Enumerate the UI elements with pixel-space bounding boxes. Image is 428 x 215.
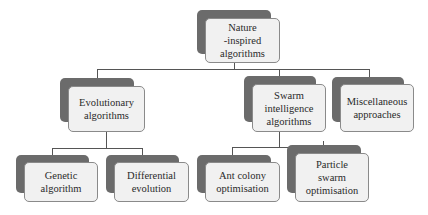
root-node: Nature -inspired algorithms	[205, 18, 280, 63]
evolutionary-algorithms-label: Evolutionary algorithms	[79, 96, 134, 122]
differential-evolution-node: Differential evolution	[114, 162, 189, 202]
connector-swarm-down	[279, 131, 280, 147]
differential-evolution-label: Differential evolution	[127, 169, 176, 195]
connector-evolutionary-down	[106, 131, 107, 148]
particle-swarm-optimisation-node: Particle swarm optimisation	[295, 153, 369, 202]
particle-swarm-optimisation-label: Particle swarm optimisation	[306, 158, 359, 197]
ant-colony-optimisation-node: Ant colony optimisation	[205, 162, 280, 202]
genetic-algorithm-node: Genetic algorithm	[24, 162, 98, 202]
connector-level1-bus	[97, 69, 370, 70]
miscellaneous-approaches-node: Miscellaneous approaches	[340, 84, 414, 132]
taxonomy-diagram: Nature -inspired algorithms Evolutionary…	[0, 0, 428, 215]
connector-to-evolutionary	[97, 69, 98, 78]
swarm-intelligence-node: Swarm intelligence algorithms	[252, 84, 326, 132]
connector-evolutionary-bus	[52, 148, 143, 149]
swarm-intelligence-label: Swarm intelligence algorithms	[265, 89, 314, 128]
genetic-algorithm-label: Genetic algorithm	[41, 169, 82, 195]
ant-colony-optimisation-label: Ant colony optimisation	[216, 169, 269, 195]
evolutionary-algorithms-node: Evolutionary algorithms	[68, 86, 145, 132]
miscellaneous-approaches-label: Miscellaneous approaches	[347, 95, 408, 121]
root-node-label: Nature -inspired algorithms	[220, 21, 265, 60]
